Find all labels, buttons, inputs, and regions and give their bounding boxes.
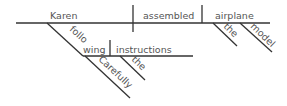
participle-object-word: instructions (116, 44, 172, 55)
participle-word-part1: follo (68, 23, 91, 45)
object-word: airplane (215, 10, 254, 21)
subject-word: Karen (50, 10, 77, 21)
participle-word-part2: wing (83, 44, 105, 55)
sentence-diagram: Karen assembled airplane the model follo… (0, 0, 287, 106)
verb-word: assembled (143, 10, 194, 21)
